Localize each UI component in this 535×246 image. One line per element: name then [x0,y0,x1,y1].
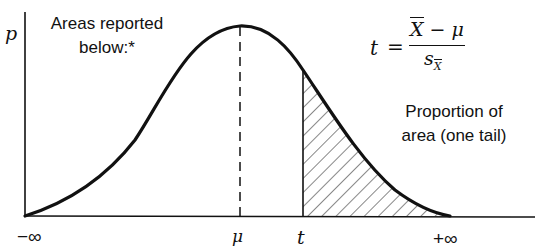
areas-note: Areas reported below:* [38,12,176,60]
formula-lhs: t [370,36,378,60]
tick-t: t [297,226,305,246]
tick-neg-infinity: −∞ [17,226,42,246]
formula-s: s [424,47,434,69]
area-label-line2: area (one tail) [384,124,524,148]
tick-pos-infinity: +∞ [433,228,458,246]
formula-minus-mu: − μ [430,18,464,40]
formula-denominator: sX [424,47,442,69]
formula-xbar: X [410,17,424,40]
formula-fraction-bar [409,45,465,46]
formula-s-sub: X [434,59,442,73]
x-axis [25,216,535,217]
y-axis-label: p [5,22,17,44]
areas-note-line2: below:* [38,36,176,60]
area-label-line1: Proportion of [384,100,524,124]
areas-note-line1: Areas reported [38,12,176,36]
tick-mu: μ [232,226,243,246]
formula-equals: = [387,35,404,59]
formula-numerator: X − μ [410,18,464,40]
t-formula: t = X − μ sX [360,18,480,78]
area-label: Proportion of area (one tail) [384,100,524,148]
